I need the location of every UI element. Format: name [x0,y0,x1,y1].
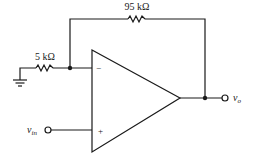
feedback-resistor-label: 95 kΩ [125,1,150,12]
output-path [180,95,228,101]
input-terminal [45,127,51,133]
feedback-resistor [128,16,145,22]
ground-resistor-label: 5 kΩ [35,51,55,62]
output-node [203,96,207,100]
feedback-path [70,16,205,98]
input-path [45,127,92,133]
noninverting-input-sign: + [98,126,103,136]
ground-branch [20,65,92,80]
inverting-input-sign: − [96,63,101,73]
opamp-circuit: 95 kΩ 5 kΩ − + vo vin [0,0,254,161]
opamp-triangle [92,50,180,152]
input-label: vin [27,124,37,137]
ground-resistor [36,65,53,71]
junction-node [68,66,72,70]
output-terminal [222,95,228,101]
ground-icon [13,80,27,86]
output-label: vo [233,92,241,105]
